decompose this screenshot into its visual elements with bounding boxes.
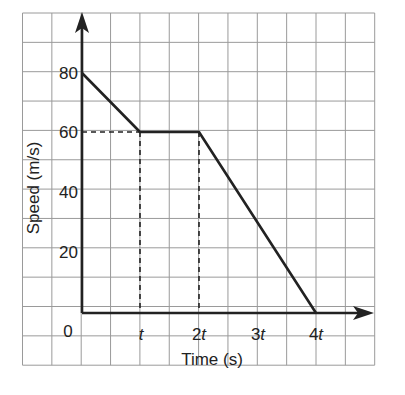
y-tick-40: 40 xyxy=(59,183,78,202)
x-tick-t: t xyxy=(139,325,145,344)
y-tick-80: 80 xyxy=(59,64,78,83)
guide-lines xyxy=(82,132,199,313)
y-tick-60: 60 xyxy=(59,123,78,142)
x-tick-4t: 4t xyxy=(309,325,324,344)
y-axis-label: Speed (m/s) xyxy=(24,142,43,235)
y-tick-20: 20 xyxy=(59,243,78,262)
x-axis-label: Time (s) xyxy=(181,350,243,369)
speed-time-graph: 80 60 40 20 0 t 2t 3t 4t Time (s) Speed … xyxy=(0,0,405,395)
x-tick-2t: 2t xyxy=(192,325,207,344)
origin-label: 0 xyxy=(63,322,72,341)
x-tick-3t: 3t xyxy=(251,325,266,344)
